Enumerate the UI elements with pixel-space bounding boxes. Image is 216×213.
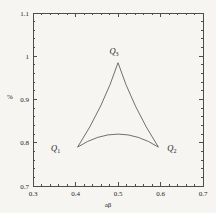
y-tick-label: 1 [26, 53, 30, 61]
y-tick-label: 0.8 [20, 139, 29, 147]
x-tick-label: 0.6 [156, 190, 165, 198]
figure-page: 0.30.40.50.60.70.70.80.911.1Q1Q2Q3 aβ % [0, 0, 216, 213]
y-tick-label: 1.1 [20, 10, 29, 18]
x-tick-label: 0.3 [29, 190, 38, 198]
plot-canvas: 0.30.40.50.60.70.70.80.911.1Q1Q2Q3 [0, 0, 216, 213]
x-tick-label: 0.4 [71, 190, 80, 198]
y-axis-label: % [7, 94, 13, 101]
y-tick-label: 0.9 [20, 96, 29, 104]
x-tick-label: 0.7 [199, 190, 208, 198]
plot-frame [33, 13, 203, 186]
deltoid-curve [78, 63, 159, 147]
cusp-label-1: Q1 [51, 143, 60, 154]
cusp-label-2: Q2 [167, 143, 176, 154]
cusp-label-3: Q3 [109, 46, 118, 57]
y-tick-label: 0.7 [20, 183, 29, 191]
x-tick-label: 0.5 [114, 190, 123, 198]
x-axis-label: aβ [105, 202, 112, 209]
